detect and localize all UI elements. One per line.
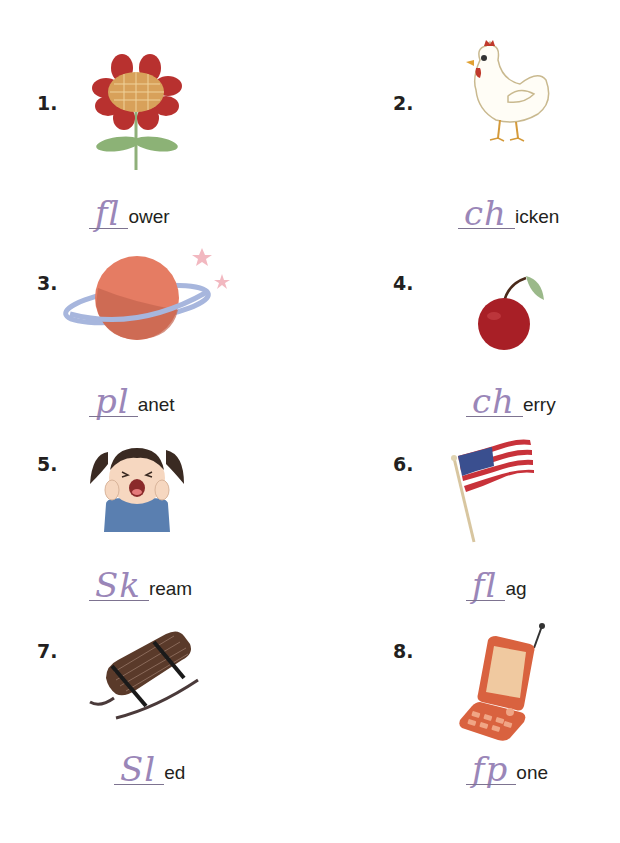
printed-word-ending: ag xyxy=(505,578,526,602)
answer-line: ch erry xyxy=(470,384,556,418)
screaming-girl-icon xyxy=(88,444,188,534)
flip-phone-icon xyxy=(458,622,548,742)
printed-word-ending: ower xyxy=(128,206,169,230)
answer-line: fl ag xyxy=(470,568,527,602)
answer-line: pl anet xyxy=(93,384,175,418)
planet-icon xyxy=(62,244,237,349)
printed-word-ending: ream xyxy=(149,578,192,602)
answer-line: fl ower xyxy=(93,196,170,230)
handwritten-letters[interactable]: pl xyxy=(93,384,132,418)
answer-line: fp one xyxy=(470,752,548,786)
item-number: 4. xyxy=(393,272,413,294)
printed-word-ending: icken xyxy=(515,206,559,230)
item-number: 2. xyxy=(393,92,413,114)
item-number: 8. xyxy=(393,640,413,662)
american-flag-icon xyxy=(448,436,538,546)
handwritten-letters[interactable]: fp xyxy=(470,752,510,786)
sled-icon xyxy=(86,628,204,723)
printed-word-ending: erry xyxy=(523,394,556,418)
item-number: 7. xyxy=(37,640,57,662)
item-number: 1. xyxy=(37,92,57,114)
handwritten-letters[interactable]: fl xyxy=(470,568,499,602)
handwritten-letters[interactable]: Sk xyxy=(93,568,143,602)
chicken-icon xyxy=(458,40,558,150)
answer-line: ch icken xyxy=(462,196,559,230)
printed-word-ending: anet xyxy=(138,394,175,418)
answer-line: Sl ed xyxy=(118,752,185,786)
answer-line: Sk ream xyxy=(93,568,192,602)
cherry-icon xyxy=(470,272,550,352)
handwritten-letters[interactable]: ch xyxy=(462,196,509,230)
flower-icon xyxy=(88,52,188,177)
printed-word-ending: one xyxy=(516,762,548,786)
item-number: 3. xyxy=(37,272,57,294)
handwritten-letters[interactable]: fl xyxy=(93,196,122,230)
item-number: 6. xyxy=(393,453,413,475)
handwritten-letters[interactable]: ch xyxy=(470,384,517,418)
printed-word-ending: ed xyxy=(164,762,185,786)
handwritten-letters[interactable]: Sl xyxy=(118,752,158,786)
item-number: 5. xyxy=(37,453,57,475)
